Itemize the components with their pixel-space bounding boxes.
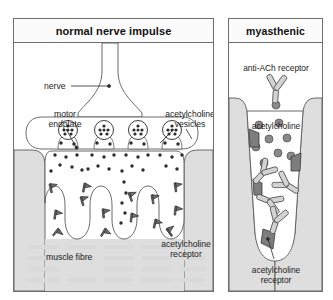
receptor-flag bbox=[102, 208, 111, 218]
label-receptor-r-line1: acetylcholine bbox=[238, 265, 314, 275]
label-acetylcholine-receptor: acetylcholine receptor bbox=[155, 239, 213, 259]
myasthenic-junction-illustration bbox=[229, 43, 322, 291]
label-nerve: nerve bbox=[44, 81, 66, 91]
label-receptor-line1: acetylcholine bbox=[155, 239, 213, 249]
label-muscle-fibre: muscle fibre bbox=[46, 252, 92, 262]
panel-myasthenic-body: anti-ACh receptor acetylcholine acetylch… bbox=[229, 43, 322, 291]
nerve-axon bbox=[78, 43, 142, 117]
panel-normal-nerve-impulse: normal nerve impulse bbox=[13, 18, 214, 292]
receptor-flag bbox=[54, 210, 63, 220]
label-receptor-line2: receptor bbox=[155, 249, 213, 259]
antibody bbox=[264, 73, 287, 103]
panel-normal-title: normal nerve impulse bbox=[56, 25, 172, 37]
panel-normal-header: normal nerve impulse bbox=[14, 19, 213, 43]
figure-root: normal nerve impulse bbox=[0, 0, 333, 300]
panel-normal-body: nerve motor endplate acetylcholine vesic… bbox=[14, 43, 213, 291]
receptor-flag bbox=[101, 228, 112, 240]
label-acetylcholine-vesicles: acetylcholine vesicles bbox=[155, 109, 213, 129]
panel-myasthenic: myasthenic bbox=[228, 18, 323, 292]
label-motor-endplate-line2: endplate bbox=[36, 119, 94, 129]
label-motor-endplate-line1: motor bbox=[36, 109, 94, 119]
label-acetylcholine: acetylcholine bbox=[252, 121, 300, 131]
panel-myasthenic-header: myasthenic bbox=[229, 19, 322, 43]
panel-myasthenic-title: myasthenic bbox=[246, 25, 305, 37]
label-receptor-r-line2: receptor bbox=[238, 275, 314, 285]
receptor-flag bbox=[52, 228, 64, 240]
vesicle bbox=[95, 121, 114, 140]
label-motor-endplate: motor endplate bbox=[36, 109, 94, 129]
label-acetylcholine-receptor-myasthenic: acetylcholine receptor bbox=[238, 265, 314, 285]
label-vesicles-line1: acetylcholine bbox=[155, 109, 213, 119]
label-vesicles-line2: vesicles bbox=[155, 119, 213, 129]
vesicle bbox=[129, 121, 148, 140]
label-anti-ach-receptor: anti-ACh receptor bbox=[243, 63, 309, 73]
junctional-folds bbox=[45, 151, 184, 239]
